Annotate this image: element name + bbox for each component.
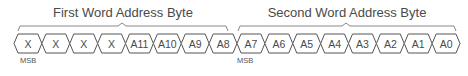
bit-cell-label: A1 [412, 38, 425, 50]
bit-cell-label: A10 [158, 38, 177, 50]
bit-cell-label: A8 [217, 38, 230, 50]
bit-cell-label: A2 [384, 38, 397, 50]
bit-cell-label: A11 [130, 38, 148, 50]
first-byte-title: First Word Address Byte [53, 5, 193, 20]
bit-cell-label: X [24, 38, 31, 50]
bit-cell-label: X [80, 38, 87, 50]
word-address-diagram: First Word Address Byte Second Word Addr… [0, 0, 468, 76]
first-byte-msb-label: MSB [20, 56, 36, 65]
bit-cell-label: A3 [356, 38, 369, 50]
bit-cell-label: A4 [328, 38, 341, 50]
bit-cell-label: X [52, 38, 59, 50]
first-byte-bracket [18, 23, 228, 31]
bit-cell-label: A0 [440, 38, 453, 50]
bit-cell-label: A7 [245, 38, 258, 50]
bit-cell-label: A6 [272, 38, 285, 50]
second-byte-msb-label: MSB [237, 56, 253, 65]
bit-cells: XXXXA11A10A9A8A7A6A5A4A3A2A1A0 [14, 34, 460, 53]
second-byte-title: Second Word Address Byte [268, 5, 427, 20]
bit-cell-label: X [108, 38, 115, 50]
bit-cell-label: A9 [189, 38, 202, 50]
bit-cell-label: A5 [300, 38, 313, 50]
second-byte-bracket [238, 23, 456, 31]
